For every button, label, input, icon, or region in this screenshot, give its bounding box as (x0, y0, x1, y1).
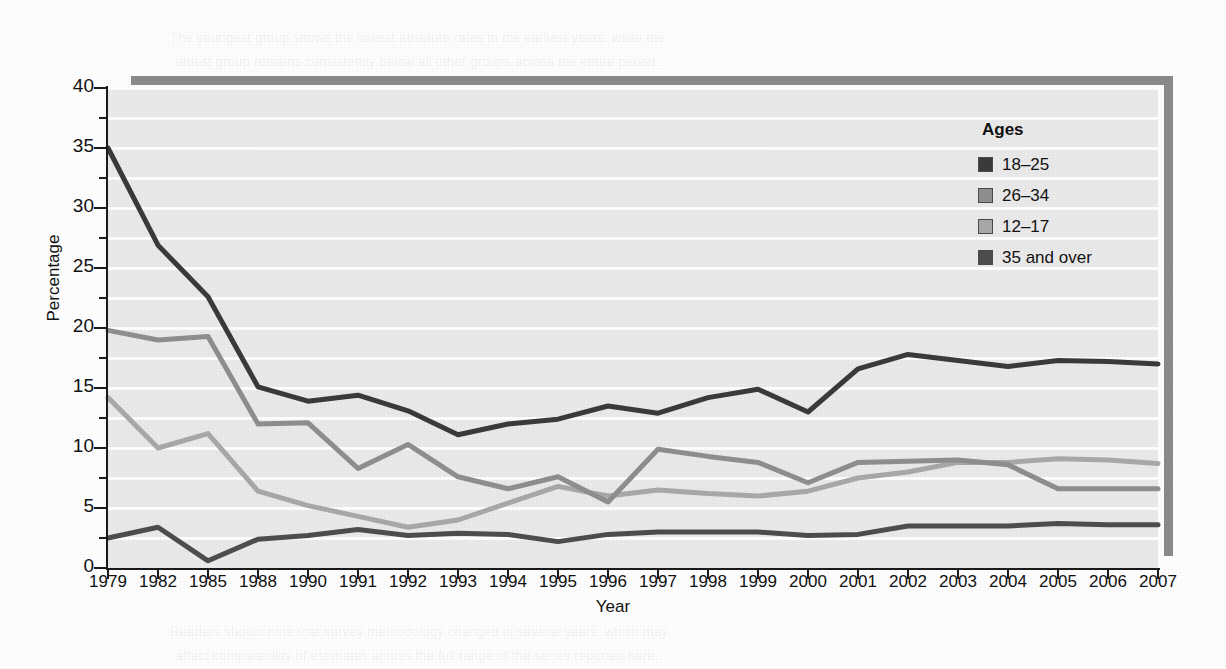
x-tick-label: 1993 (432, 572, 484, 592)
x-tick-label: 2001 (832, 572, 884, 592)
legend-entry: 18–25 (978, 149, 1092, 180)
y-tick-major (94, 327, 108, 329)
x-axis-title: Year (0, 597, 1226, 617)
x-tick-label: 2000 (782, 572, 834, 592)
legend-swatch (978, 219, 993, 234)
bleed-line: affect comparability of estimates across… (176, 648, 659, 663)
y-tick-major (94, 447, 108, 449)
y-tick-major (94, 267, 108, 269)
frame-rule-right (1164, 76, 1173, 556)
series-line (108, 330, 1158, 502)
legend-entries: 18–2526–3412–1735 and over (978, 149, 1092, 273)
y-tick-label: 5 (54, 495, 94, 517)
x-tick-label: 1994 (482, 572, 534, 592)
bleed-line: Readers should note that survey methodol… (170, 624, 668, 639)
y-tick-major (94, 567, 108, 569)
bleed-line: oldest group remains consistently below … (176, 54, 659, 69)
y-axis-title: Percentage (44, 218, 64, 338)
series-line (108, 524, 1158, 561)
x-tick-label: 1997 (632, 572, 684, 592)
x-tick-label: 1995 (532, 572, 584, 592)
y-tick-label: 15 (54, 375, 94, 397)
y-tick-minor (99, 177, 108, 179)
bleed-line: The youngest group shows the lowest abso… (170, 30, 665, 45)
legend-label: 26–34 (1002, 186, 1049, 206)
x-tick-label: 2003 (932, 572, 984, 592)
y-tick-major (94, 147, 108, 149)
x-tick-label: 1988 (232, 572, 284, 592)
x-tick-label: 2004 (982, 572, 1034, 592)
y-tick-minor (99, 117, 108, 119)
y-tick-major (94, 507, 108, 509)
legend: Ages 18–2526–3412–1735 and over (978, 120, 1092, 273)
y-tick-label: 30 (54, 195, 94, 217)
legend-title: Ages (982, 120, 1092, 140)
legend-swatch (978, 250, 993, 265)
frame-rule-top (131, 76, 1172, 85)
x-tick-label: 1985 (182, 572, 234, 592)
y-tick-minor (99, 237, 108, 239)
legend-label: 18–25 (1002, 155, 1049, 175)
y-tick-label: 40 (54, 75, 94, 97)
y-tick-minor (99, 357, 108, 359)
y-tick-minor (99, 297, 108, 299)
y-tick-label: 35 (54, 135, 94, 157)
legend-label: 12–17 (1002, 217, 1049, 237)
x-tick-label: 1982 (132, 572, 184, 592)
y-tick-major (94, 387, 108, 389)
y-tick-minor (99, 417, 108, 419)
legend-label: 35 and over (1002, 248, 1092, 268)
x-tick-label: 1991 (332, 572, 384, 592)
x-tick-label: 2006 (1082, 572, 1134, 592)
chart-figure: Illicit Drug Use Among Current Cigarette… (0, 0, 1226, 669)
x-tick-label: 1996 (582, 572, 634, 592)
legend-entry: 35 and over (978, 242, 1092, 273)
y-tick-minor (99, 537, 108, 539)
x-tick-label: 2005 (1032, 572, 1084, 592)
legend-entry: 12–17 (978, 211, 1092, 242)
x-tick-label: 1992 (382, 572, 434, 592)
legend-swatch (978, 157, 993, 172)
legend-swatch (978, 188, 993, 203)
x-tick-label: 1998 (682, 572, 734, 592)
y-tick-major (94, 207, 108, 209)
x-tick-label: 2002 (882, 572, 934, 592)
x-tick-label: 1990 (282, 572, 334, 592)
x-tick-label: 1979 (82, 572, 134, 592)
x-tick-label: 1999 (732, 572, 784, 592)
y-tick-major (94, 87, 108, 89)
y-tick-minor (99, 477, 108, 479)
legend-entry: 26–34 (978, 180, 1092, 211)
x-axis-line (106, 568, 1160, 570)
y-tick-label: 10 (54, 435, 94, 457)
x-tick-label: 2007 (1132, 572, 1184, 592)
